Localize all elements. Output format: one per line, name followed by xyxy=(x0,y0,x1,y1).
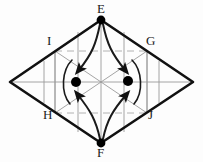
right-equilibrium-point xyxy=(123,76,133,86)
label-upper-left-vertex-I: I xyxy=(47,34,51,47)
arrow-from-top-to-left-dot xyxy=(79,24,100,70)
label-top-vertex-E: E xyxy=(97,2,105,15)
rhombus-diagram-svg xyxy=(0,0,203,162)
arrow-from-bottom-to-left-dot xyxy=(78,95,100,139)
arrow-from-top-to-right-dot xyxy=(103,24,125,70)
label-lower-right-vertex-J: J xyxy=(148,108,153,121)
label-upper-right-vertex-G: G xyxy=(146,34,155,47)
label-lower-left-vertex-H: H xyxy=(43,108,52,121)
label-bottom-vertex-F: F xyxy=(97,146,104,159)
diagram-canvas: E F I G H J xyxy=(0,0,203,162)
left-equilibrium-point xyxy=(71,77,81,87)
top-vertex-dot xyxy=(97,16,106,25)
arrow-from-bottom-to-right-dot xyxy=(103,95,126,139)
